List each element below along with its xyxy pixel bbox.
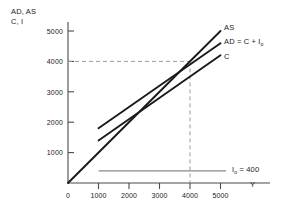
investment-annotation-value: = 400	[237, 165, 259, 174]
y-tick-label-3000: 3000	[33, 88, 63, 97]
as-curve-label: AS	[224, 23, 234, 32]
c-curve-label: C	[224, 52, 230, 61]
investment-annotation-subscript: o	[234, 169, 237, 175]
y-axis-ticks	[68, 31, 74, 153]
y-axis-title-line2: C, I	[11, 17, 23, 27]
c-curve	[99, 55, 221, 140]
ad-curve	[99, 43, 221, 128]
y-tick-label-2000: 2000	[33, 118, 63, 127]
x-tick-label-0: 0	[53, 191, 83, 200]
y-tick-label-4000: 4000	[33, 57, 63, 66]
y-tick-label-1000: 1000	[33, 148, 63, 157]
ad-curve-label: AD = C + Io	[224, 37, 264, 47]
x-axis-title: Y	[250, 180, 255, 189]
x-tick-label-4000: 4000	[175, 191, 205, 200]
y-axis-title-line1: AD, AS	[11, 7, 36, 17]
x-tick-label-5000: 5000	[206, 191, 236, 200]
y-tick-label-5000: 5000	[33, 27, 63, 36]
ad-curve-label-subscript: o	[261, 41, 264, 47]
economics-ad-as-chart: AD, AS C, I Y 5000 4000 3000 2000 1000 0…	[0, 0, 287, 212]
x-tick-label-3000: 3000	[145, 191, 175, 200]
x-tick-label-1000: 1000	[84, 191, 114, 200]
investment-annotation: Io = 400	[232, 165, 259, 175]
x-tick-label-2000: 2000	[114, 191, 144, 200]
as-curve	[68, 31, 221, 183]
x-axis-ticks	[99, 183, 221, 189]
ad-curve-label-text: AD = C + I	[224, 37, 261, 46]
